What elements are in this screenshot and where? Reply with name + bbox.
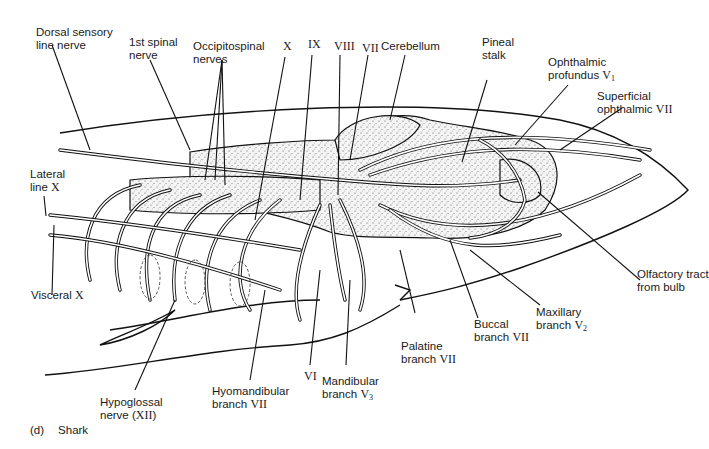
label-facial-vii: VII <box>362 42 379 55</box>
caption-text: Shark <box>58 424 88 436</box>
label-acoustic-viii: VIII <box>334 40 355 53</box>
label-cerebellum: Cerebellum <box>381 40 440 53</box>
figure-caption: (d)Shark <box>30 424 102 436</box>
label-visceral-x: Visceral X <box>31 289 84 302</box>
label-pineal-stalk: Pineal stalk <box>482 36 514 62</box>
label-superficial-ophthalmic: Superficial ophthalmic VII <box>597 90 673 116</box>
label-dorsal-sensory-line-nerve: Dorsal sensory line nerve <box>36 26 113 52</box>
label-occipitospinal-nerves: Occipitospinal nerves <box>193 40 265 66</box>
label-hypoglossal-nerve: Hypoglossal nerve (XII) <box>100 396 163 422</box>
label-olfactory-tract: Olfactory tract from bulb <box>637 268 709 294</box>
label-palatine-branch: Palatine branch VII <box>401 340 456 366</box>
caption-letter: (d) <box>30 424 44 436</box>
label-buccal-branch: Buccal branch VII <box>474 318 529 344</box>
label-hyomandibular-branch: Hyomandibular branch VII <box>212 385 289 411</box>
label-vagus-x: X <box>283 40 292 53</box>
label-first-spinal-nerve: 1st spinal nerve <box>129 36 178 62</box>
label-mandibular-branch: Mandibular branch V3 <box>322 375 379 404</box>
label-lateral-line-x: Lateral line X <box>30 168 65 194</box>
label-ophthalmic-profundus: Ophthalmic profundus V1 <box>548 56 615 85</box>
label-abducens-vi: VI <box>304 370 317 383</box>
label-glossopharyngeal-ix: IX <box>308 38 321 51</box>
label-maxillary-branch: Maxillary branch V2 <box>536 306 587 335</box>
